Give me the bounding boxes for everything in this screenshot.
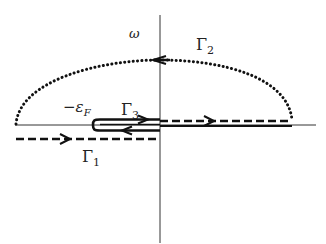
contour-gamma2-arc — [16, 60, 292, 124]
neg-epsilon-f-label: −εF — [63, 98, 92, 118]
contour-diagram: ω Γ2 Γ3 −εF Γ1 — [0, 0, 326, 244]
gamma2-label: Γ2 — [196, 35, 214, 57]
gamma3-label: Γ3 — [121, 100, 139, 122]
omega-label: ω — [129, 26, 140, 41]
gamma1-label: Γ1 — [82, 147, 100, 169]
